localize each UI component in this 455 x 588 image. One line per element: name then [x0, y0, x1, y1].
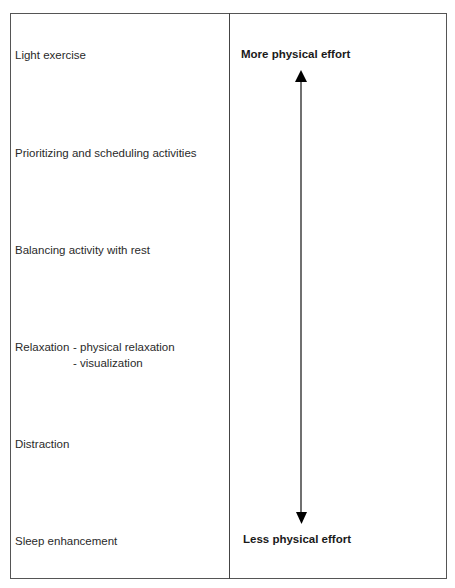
label-less-physical-effort: Less physical effort [243, 533, 351, 545]
double-arrow-icon [285, 68, 317, 528]
item-relaxation-sub-visualization: - visualization [73, 356, 143, 371]
item-light-exercise: Light exercise [15, 48, 86, 63]
item-relaxation-sub-physical: - physical relaxation [73, 340, 175, 355]
label-more-physical-effort: More physical effort [241, 48, 350, 60]
item-prioritizing-scheduling: Prioritizing and scheduling activities [15, 146, 197, 161]
item-balancing-activity-rest: Balancing activity with rest [15, 243, 150, 258]
item-sleep-enhancement: Sleep enhancement [15, 534, 117, 549]
column-divider [229, 13, 230, 579]
item-relaxation: Relaxation [15, 340, 69, 355]
item-distraction: Distraction [15, 437, 69, 452]
